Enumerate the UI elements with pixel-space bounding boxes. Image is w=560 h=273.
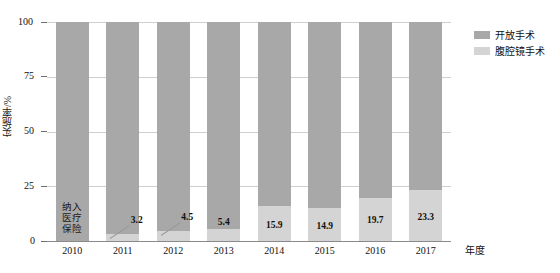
y-axis-title: 实施率/%	[2, 96, 16, 137]
legend-item-laparoscopic-surgery[interactable]: 腹腔镜手术	[474, 43, 545, 59]
x-axis-title: 年度	[465, 246, 485, 256]
plot-area: 纳入医疗保险 3.24.55.415.914.919.723.3	[47, 22, 451, 241]
stacked-bar-chart: 实施率/% 100 75 50 25 0 纳入医疗保险 3.24.55.415.…	[0, 0, 560, 273]
legend-label-laparoscopic-surgery: 腹腔镜手术	[495, 46, 545, 57]
legend-swatch-open-surgery	[474, 31, 490, 39]
value-label-2013: 5.4	[204, 217, 244, 227]
x-tick-label-2016: 2016	[350, 246, 400, 256]
leader-line-2011	[110, 225, 130, 239]
y-tick-label-0: 0	[30, 236, 35, 246]
value-label-2016: 19.7	[355, 215, 395, 225]
axis-baseline-0	[47, 241, 451, 242]
x-tick-label-2013: 2013	[199, 246, 249, 256]
y-tick-label-25: 25	[24, 181, 34, 191]
x-tick-label-2011: 2011	[98, 246, 148, 256]
y-tick-label-50: 50	[24, 126, 34, 136]
legend-swatch-laparoscopic-surgery	[474, 47, 490, 55]
y-tick-label-100: 100	[18, 17, 33, 27]
value-labels-layer: 3.24.55.415.914.919.723.3	[47, 22, 451, 241]
value-label-2014: 15.9	[254, 220, 294, 230]
x-tick-label-2014: 2014	[249, 246, 299, 256]
y-tick-label-75: 75	[24, 71, 34, 81]
x-tick-label-2015: 2015	[300, 246, 350, 256]
x-tick-label-2017: 2017	[401, 246, 451, 256]
value-label-2011: 3.2	[131, 215, 165, 225]
x-tick-label-2010: 2010	[47, 246, 97, 256]
legend-label-open-surgery: 开放手术	[495, 30, 535, 41]
legend-item-open-surgery[interactable]: 开放手术	[474, 27, 545, 43]
value-label-2015: 14.9	[305, 221, 345, 231]
value-label-2017: 23.3	[406, 212, 446, 222]
legend: 开放手术 腹腔镜手术	[474, 27, 545, 59]
x-tick-label-2012: 2012	[148, 246, 198, 256]
